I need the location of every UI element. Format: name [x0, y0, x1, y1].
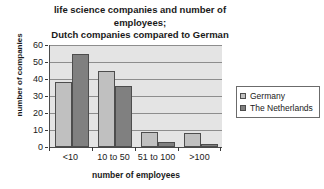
- x-tick-mark-0: [49, 147, 50, 151]
- x-label-51to100: 51 to 100: [135, 152, 178, 163]
- x-label-10to50: 10 to 50: [92, 152, 135, 163]
- y-tick-mark-60: [45, 45, 48, 46]
- x-tick-mark-1: [92, 147, 93, 151]
- y-tick-label-40: 40: [33, 75, 43, 84]
- y-tick-mark-40: [45, 79, 48, 80]
- x-axis-labels: <10 10 to 50 51 to 100 >100: [49, 152, 221, 163]
- chart-title: life science companies and number of emp…: [0, 4, 280, 42]
- x-tick-mark-4: [220, 147, 221, 151]
- bar-germany-gt100: [184, 133, 201, 147]
- y-tick-label-50: 50: [33, 58, 43, 67]
- legend-item-netherlands: The Netherlands: [240, 102, 315, 114]
- bar-germany-10to50: [98, 71, 115, 148]
- chart-legend: Germany The Netherlands: [236, 86, 320, 118]
- bar-germany-51to100: [141, 132, 158, 147]
- y-tick-mark-0: [45, 147, 48, 148]
- bar-groups: [50, 45, 222, 147]
- legend-label-netherlands: The Netherlands: [250, 103, 313, 113]
- y-tick-label-30: 30: [33, 92, 43, 101]
- legend-swatch-netherlands-icon: [240, 105, 246, 111]
- y-tick-mark-50: [45, 62, 48, 63]
- chart-title-line-1: life science companies and number of: [0, 4, 280, 17]
- x-axis-title: number of employees: [36, 170, 236, 180]
- x-label-lt10: <10: [49, 152, 92, 163]
- bar-netherlands-lt10: [72, 54, 89, 148]
- y-tick-label-60: 60: [33, 41, 43, 50]
- y-tick-label-0: 0: [38, 143, 43, 152]
- plot-area: [49, 45, 222, 148]
- x-tick-mark-2: [135, 147, 136, 151]
- bar-netherlands-10to50: [115, 86, 132, 147]
- y-tick-label-20: 20: [33, 109, 43, 118]
- legend-swatch-germany-icon: [240, 93, 246, 99]
- legend-label-germany: Germany: [250, 91, 285, 101]
- x-label-gt100: >100: [178, 152, 221, 163]
- bar-group-10to50: [93, 45, 136, 147]
- bar-chart: life science companies and number of emp…: [0, 0, 324, 189]
- y-axis-ticks: 60 50 40 30 20 10 0: [22, 41, 46, 149]
- bar-group-gt100: [179, 45, 222, 147]
- y-tick-mark-10: [45, 130, 48, 131]
- bar-germany-lt10: [55, 82, 72, 147]
- y-tick-label-10: 10: [33, 126, 43, 135]
- bar-group-lt10: [50, 45, 93, 147]
- legend-item-germany: Germany: [240, 90, 315, 102]
- y-tick-mark-30: [45, 96, 48, 97]
- y-tick-mark-20: [45, 113, 48, 114]
- chart-title-line-2: employees;: [0, 17, 280, 30]
- x-tick-mark-3: [178, 147, 179, 151]
- bar-group-51to100: [136, 45, 179, 147]
